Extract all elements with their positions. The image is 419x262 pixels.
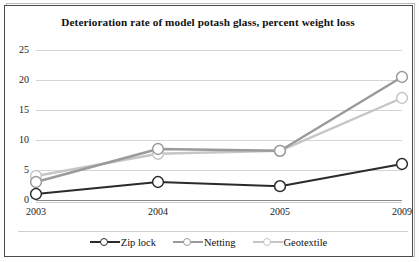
chart-title-line-1: Deterioration rate of model potash glass…: [61, 16, 298, 28]
chart-title: Deterioration rate of model potash glass…: [43, 15, 373, 30]
legend-separator: [18, 231, 408, 232]
x-tick-label-2009: 2009: [372, 206, 419, 217]
x-axis-line: [36, 200, 402, 201]
y-tick-label-20: 20: [5, 74, 29, 85]
x-tick-label-2003: 2003: [6, 206, 66, 217]
y-tick-label-15: 15: [5, 104, 29, 115]
legend-item-zip-lock[interactable]: Zip lock: [90, 236, 156, 248]
data-point-netting-2009: [397, 72, 408, 83]
legend-circle-icon: [100, 238, 108, 246]
y-tick-label-25: 25: [5, 44, 29, 55]
legend-label: Zip lock: [121, 237, 156, 248]
y-tick-label-5: 5: [5, 164, 29, 175]
legend-item-geotextile[interactable]: Geotextile: [253, 236, 328, 248]
x-tick-label-2005: 2005: [250, 206, 310, 217]
chart-title-line-2: weight loss: [302, 16, 355, 28]
data-point-netting-2004: [153, 144, 164, 155]
data-point-zip-lock-2003: [31, 189, 42, 200]
legend-circle-icon: [183, 238, 191, 246]
chart-figure: Deterioration rate of model potash glass…: [0, 0, 419, 262]
data-point-zip-lock-2005: [275, 181, 286, 192]
chart-legend: Zip lockNettingGeotextile: [5, 236, 412, 248]
legend-item-netting[interactable]: Netting: [173, 236, 236, 248]
series-line-zip-lock: [36, 164, 402, 194]
plot-area: [36, 50, 402, 200]
data-point-netting-2003: [31, 177, 42, 188]
x-axis-line-shadow: [36, 202, 402, 203]
legend-marker-icon: [253, 236, 283, 248]
legend-marker-icon: [90, 236, 120, 248]
legend-label: Geotextile: [284, 237, 328, 248]
chart-canvas: Deterioration rate of model potash glass…: [5, 6, 412, 256]
series-lines-layer: [36, 50, 402, 200]
legend-marker-icon: [173, 236, 203, 248]
data-point-geotextile-2009: [397, 93, 408, 104]
legend-label: Netting: [204, 237, 236, 248]
data-point-zip-lock-2009: [397, 159, 408, 170]
data-point-zip-lock-2004: [153, 177, 164, 188]
data-point-netting-2005: [275, 145, 286, 156]
legend-circle-icon: [263, 238, 271, 246]
x-tick-label-2004: 2004: [128, 206, 188, 217]
y-tick-label-0: 0: [5, 194, 29, 205]
y-tick-label-10: 10: [5, 134, 29, 145]
series-line-netting: [36, 77, 402, 182]
